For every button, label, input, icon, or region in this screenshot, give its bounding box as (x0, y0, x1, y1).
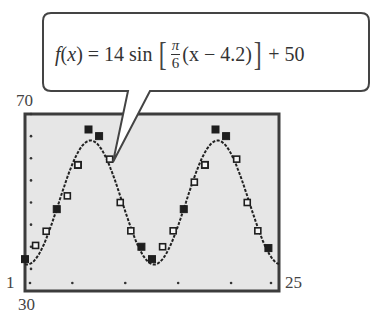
open-square-marker (191, 179, 197, 185)
open-square-marker (43, 228, 49, 234)
x-tick-dot (270, 282, 273, 285)
y-tick-dot (30, 268, 33, 271)
open-square-marker (64, 193, 70, 199)
x-tick-dot (71, 282, 74, 285)
left-bracket: [ (159, 37, 167, 71)
fraction: π 6 (171, 38, 181, 71)
open-square-marker (255, 228, 261, 234)
formula-inner: (x − 4.2) (182, 43, 252, 66)
formula-tail: + 50 (263, 43, 304, 66)
y-tick-dot (30, 135, 33, 138)
filled-square-marker (53, 206, 60, 213)
y-tick-dot (30, 223, 33, 226)
open-square-marker (117, 200, 123, 206)
y-min-label: 30 (18, 296, 35, 313)
right-bracket: ] (254, 37, 262, 71)
x-tick-dot (124, 282, 127, 285)
filled-square-marker (22, 256, 29, 263)
y-tick-dot (30, 201, 33, 204)
formula-eq: = 14 sin (83, 43, 158, 66)
x-max-label: 25 (285, 274, 302, 291)
filled-square-marker (138, 243, 145, 250)
y-max-label: 70 (16, 92, 33, 109)
filled-square-marker (149, 256, 156, 263)
open-square-marker (107, 156, 113, 162)
open-square-marker (170, 228, 176, 234)
paren: ) (76, 43, 83, 66)
filled-square-marker (265, 245, 272, 252)
formula-x: x (67, 43, 76, 66)
filled-square-marker (96, 133, 103, 140)
open-square-marker (160, 244, 166, 250)
y-tick-dot (30, 157, 33, 160)
open-square-marker (202, 162, 208, 168)
x-min-label: 1 (6, 274, 15, 291)
filled-square-marker (212, 126, 219, 133)
formula-text: f(x) = 14 sin [ π 6 (x − 4.2) ] + 50 (55, 34, 365, 74)
x-tick-dot (177, 282, 180, 285)
open-square-marker (33, 242, 39, 248)
open-square-marker (244, 200, 250, 206)
x-tick-dot (230, 282, 233, 285)
fraction-numerator: π (171, 38, 181, 55)
open-square-marker (234, 156, 240, 162)
filled-square-marker (180, 206, 187, 213)
x-tick-dot (29, 282, 32, 285)
y-tick-dot (30, 179, 33, 182)
filled-square-marker (85, 126, 92, 133)
plot-frame (25, 114, 279, 291)
y-tick-dot (30, 113, 33, 116)
fraction-denominator: 6 (172, 55, 180, 71)
open-square-marker (75, 162, 81, 168)
filled-square-marker (223, 133, 230, 140)
open-square-marker (128, 228, 134, 234)
